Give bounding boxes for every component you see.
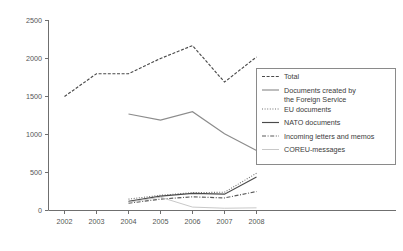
legend-item-label: Documents created by <box>284 86 356 95</box>
series-line <box>129 177 257 201</box>
legend-item-label: COREU-messages <box>284 145 346 154</box>
y-tick-label: 1000 <box>26 130 42 139</box>
y-tick-label: 500 <box>30 168 42 177</box>
y-tick-label: 0 <box>38 206 42 215</box>
y-tick-label: 1500 <box>26 92 42 101</box>
line-chart-figure: 2500 2000 1500 1000 500 0 <box>0 0 403 251</box>
x-axis <box>49 211 397 215</box>
series-line <box>65 46 257 97</box>
y-axis <box>45 20 49 211</box>
legend-item-label: EU documents <box>284 105 332 114</box>
chart-legend: TotalDocuments created bythe Foreign Ser… <box>257 69 396 165</box>
x-tick-label: 2005 <box>153 217 169 226</box>
y-tick-label: 2000 <box>26 54 42 63</box>
x-axis-tick-labels: 2002 2003 2004 2005 2006 2007 2008 <box>57 217 265 226</box>
x-tick-label: 2007 <box>217 217 233 226</box>
y-tick-label: 2500 <box>26 16 42 25</box>
x-tick-label: 2008 <box>249 217 265 226</box>
chart-svg: 2500 2000 1500 1000 500 0 <box>0 0 403 251</box>
x-tick-label: 2003 <box>89 217 105 226</box>
y-axis-tick-labels: 2500 2000 1500 1000 500 0 <box>26 16 42 215</box>
legend-item-label: Total <box>284 72 300 81</box>
series-line <box>129 197 257 208</box>
legend-item-label-line2: the Foreign Service <box>284 95 346 104</box>
data-series-group <box>65 46 257 209</box>
x-tick-label: 2004 <box>121 217 137 226</box>
series-line <box>129 112 257 151</box>
legend-item-label: NATO documents <box>284 118 341 127</box>
legend-item-label: Incoming letters and memos <box>284 132 375 141</box>
x-tick-label: 2002 <box>57 217 73 226</box>
x-tick-label: 2006 <box>185 217 201 226</box>
